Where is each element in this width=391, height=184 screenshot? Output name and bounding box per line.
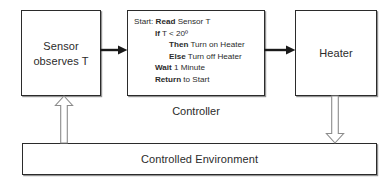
pseudocode-keyword: Then [169,40,188,49]
arrow-sensor-to-controller-icon [100,45,128,55]
pseudocode-keyword: Else [169,52,186,61]
pseudocode-text: Start: [134,17,153,26]
controller-block: Start: Read Sensor TIf T < 20ºThen Turn … [127,10,265,96]
sensor-label-line2: observes T [33,55,88,67]
pseudocode-line: Start: Read Sensor T [134,16,261,28]
controlled-environment-block: Controlled Environment [22,143,377,175]
arrow-controller-to-heater-icon [264,45,296,55]
pseudocode-line: Else Turn off Heater [134,51,261,63]
pseudocode-line: Wait 1 Minute [134,62,261,74]
pseudocode-keyword: Return [155,75,181,84]
pseudocode-keyword: Wait [155,63,172,72]
pseudocode-text: Turn off Heater [186,52,242,61]
arrow-heater-to-environment-icon [325,95,345,144]
heater-block: Heater [295,10,377,96]
pseudocode-line: Then Turn on Heater [134,39,261,51]
pseudocode-text: to Start [181,75,209,84]
controlled-environment-label: Controlled Environment [23,152,376,167]
controller-caption: Controller [127,104,265,118]
heater-block-label: Heater [296,46,376,61]
pseudocode-text: Sensor T [175,17,210,26]
arrow-environment-to-sensor-icon [54,95,74,144]
sensor-label-line1: Sensor [43,40,78,52]
pseudocode-line: If T < 20º [134,28,261,40]
sensor-block-label: Sensor observes T [22,39,100,68]
sensor-block: Sensor observes T [21,10,101,96]
pseudocode-text: 1 Minute [172,63,205,72]
pseudocode-keyword: Read [153,17,175,26]
controller-pseudocode: Start: Read Sensor TIf T < 20ºThen Turn … [134,16,261,86]
control-loop-diagram: Sensor observes T Start: Read Sensor TIf… [0,0,391,184]
pseudocode-text: T < 20º [160,29,188,38]
pseudocode-text: Turn on Heater [188,40,244,49]
pseudocode-line: Return to Start [134,74,261,86]
